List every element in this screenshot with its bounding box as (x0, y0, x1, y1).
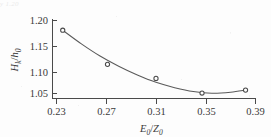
y-tick-label-0: 1.20 (30, 15, 48, 26)
y-axis-title-sub2: 0 (14, 48, 23, 52)
data-point-marker (154, 76, 158, 80)
y-tick-label-3: 1.05 (30, 88, 48, 99)
data-point-marker (61, 28, 65, 32)
x-axis-title: E0/Z0 (139, 123, 163, 137)
data-point-marker (243, 88, 247, 92)
x-tick-label-1: 0.27 (97, 106, 115, 117)
y-tick-label-2: 1.10 (30, 67, 48, 78)
svg-text:E0/Z0: E0/Z0 (139, 123, 163, 137)
x-tick-marks (57, 99, 256, 105)
y-tick-label-1: 1.15 (30, 41, 48, 52)
x-axis-title-sub2: 0 (159, 128, 163, 137)
x-tick-labels: 0.23 0.27 0.31 0.35 0.39 (47, 106, 264, 117)
axis-group (52, 19, 256, 99)
x-tick-label-3: 0.35 (197, 106, 215, 117)
data-point-marker (200, 91, 204, 95)
x-tick-label-4: 0.39 (246, 106, 264, 117)
y-tick-labels: 1.20 1.15 1.10 1.05 (30, 15, 48, 99)
x-tick-label-2: 0.31 (147, 106, 165, 117)
y-tick-marks (53, 21, 58, 94)
x-tick-label-0: 0.23 (47, 106, 65, 117)
data-point-marker (105, 62, 109, 66)
fitted-curve-line (63, 30, 246, 93)
y-axis-title: Hk/h0 (9, 48, 23, 72)
svg-text:Hk/h0: Hk/h0 (9, 48, 23, 72)
data-point-markers (61, 28, 248, 95)
figure-container: y 1.20 1.20 1.15 1.10 (0, 0, 271, 137)
chart-plot: 1.20 1.15 1.10 1.05 0.23 0.27 0.31 0.35 … (0, 0, 271, 137)
